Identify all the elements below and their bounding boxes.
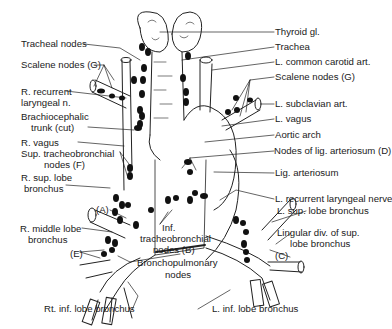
label-sup-tracheobronchial-1: Sup. tracheobronchial — [21, 148, 114, 159]
label-sup-tracheobronchial-2: nodes (F) — [44, 159, 85, 170]
label-tracheal-nodes: Tracheal nodes — [21, 38, 87, 49]
label-lingular-div-1: Lingular div. of sup. — [277, 227, 359, 238]
label-l-subclavian: L. subclavian art. — [275, 98, 348, 109]
label-nodes-lig-arteriosum: Nodes of lig. arteriosum (D) — [274, 145, 391, 156]
label-brachiocephalic-2: trunk (cut) — [31, 122, 74, 133]
label-r-recurrent-2: laryngeal n. — [21, 97, 71, 108]
label-thyroid-gland: Thyroid gl. — [275, 26, 320, 37]
trachea — [150, 52, 184, 135]
label-a: (A) — [96, 204, 109, 215]
label-c: (C) — [275, 250, 288, 261]
label-rt-inf-lobe-bronchus: Rt. inf. lobe bronchus — [44, 303, 135, 314]
label-l-recurrent-laryngeal: L. recurrent laryngeal nerve — [275, 193, 392, 204]
left-main-bronchus — [206, 236, 270, 300]
label-r-sup-lobe-1: R. sup. lobe — [21, 172, 72, 183]
label-scalene-nodes-right: Scalene nodes (G) — [21, 59, 101, 70]
label-r-middle-lobe-1: R. middle lobe — [20, 223, 81, 234]
label-brachiocephalic-1: Brachiocephalic — [21, 111, 89, 122]
label-l-common-carotid: L. common carotid art. — [275, 56, 370, 67]
label-aortic-arch: Aortic arch — [275, 129, 321, 140]
label-inf-tracheobronchial-1: Inf. — [162, 222, 175, 233]
label-l-vagus: L. vagus — [275, 113, 311, 124]
label-l-inf-lobe-bronchus: L. inf. lobe bronchus — [212, 303, 298, 314]
label-lig-arteriosum: Lig. arteriosum — [275, 167, 338, 178]
label-lingular-div-2: lobe bronchus — [290, 238, 350, 249]
label-bronchopulmonary-2: nodes — [165, 269, 191, 280]
label-r-vagus: R. vagus — [21, 137, 59, 148]
label-e: (E) — [70, 248, 83, 259]
label-l-sup-lobe-bronchus: L. sup. lobe bronchus — [277, 205, 369, 216]
label-r-recurrent-1: R. recurrent — [21, 86, 72, 97]
label-trachea: Trachea — [275, 41, 310, 52]
label-scalene-nodes-left: Scalene nodes (G) — [275, 71, 355, 82]
label-inf-tracheobronchial-2: tracheobronchial — [140, 233, 211, 244]
label-bronchopulmonary-1: Bronchopulmonary — [137, 257, 218, 268]
label-inf-tracheobronchial-3: nodes (B) — [153, 244, 195, 255]
label-r-middle-lobe-2: bronchus — [28, 234, 67, 245]
label-r-sup-lobe-2: bronchus — [24, 183, 63, 194]
